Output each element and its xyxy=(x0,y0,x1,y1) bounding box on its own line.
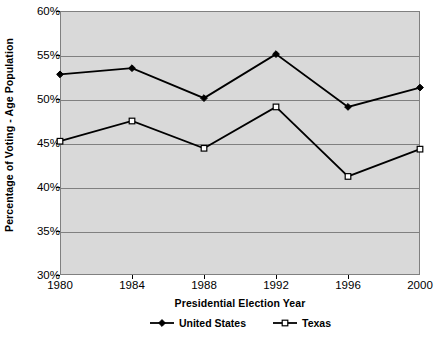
y-tick-label: 60% xyxy=(4,5,60,17)
series-line xyxy=(60,54,420,107)
data-series xyxy=(57,51,424,111)
legend-marker-filled-diamond-icon xyxy=(149,317,175,329)
x-tick-label: 2000 xyxy=(390,279,440,291)
y-tick-mark xyxy=(56,275,60,276)
series-line xyxy=(60,107,420,177)
data-point-marker xyxy=(129,118,135,124)
data-point-marker xyxy=(201,145,207,151)
data-point-marker xyxy=(345,174,351,180)
legend-label: United States xyxy=(179,317,246,329)
data-point-marker xyxy=(57,138,63,144)
legend-marker-open-square-icon xyxy=(272,317,298,329)
x-tick-label: 1992 xyxy=(246,279,306,291)
x-tick-label: 1984 xyxy=(102,279,162,291)
x-tick-label: 1980 xyxy=(30,279,90,291)
x-tick-mark xyxy=(276,275,277,279)
legend-entry: Texas xyxy=(272,317,331,329)
legend-label: Texas xyxy=(302,317,331,329)
y-tick-label: 45% xyxy=(4,137,60,149)
x-tick-mark xyxy=(348,275,349,279)
x-tick-mark xyxy=(132,275,133,279)
y-tick-label: 50% xyxy=(4,93,60,105)
data-series-layer xyxy=(60,11,420,275)
x-tick-label: 1996 xyxy=(318,279,378,291)
data-series xyxy=(57,104,423,179)
x-axis-title: Presidential Election Year xyxy=(60,297,420,309)
data-point-marker xyxy=(417,146,423,152)
y-tick-label: 55% xyxy=(4,49,60,61)
y-tick-label: 35% xyxy=(4,225,60,237)
data-point-marker xyxy=(417,84,424,91)
x-tick-mark xyxy=(204,275,205,279)
chart-legend: United StatesTexas xyxy=(60,317,420,329)
legend-entry: United States xyxy=(149,317,246,329)
chart-container: Percentage of Voting - Age Population 60… xyxy=(0,0,440,340)
y-tick-label: 40% xyxy=(4,181,60,193)
x-tick-label: 1988 xyxy=(174,279,234,291)
data-point-marker xyxy=(273,104,279,110)
data-point-marker xyxy=(129,65,136,72)
